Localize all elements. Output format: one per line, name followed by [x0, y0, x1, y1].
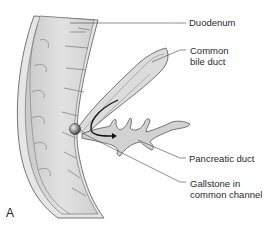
label-gallstone-line2: common channel	[190, 189, 262, 200]
label-common-bile-duct: Common bile duct	[190, 45, 229, 67]
gallstone	[70, 124, 81, 135]
label-pancreatic-duct: Pancreatic duct	[189, 153, 254, 164]
label-common-bile-duct-line1: Common	[190, 45, 229, 56]
panel-letter: A	[6, 206, 14, 220]
label-duodenum: Duodenum	[189, 17, 235, 28]
label-gallstone-line1: Gallstone in	[190, 178, 262, 189]
label-gallstone: Gallstone in common channel	[190, 178, 262, 200]
label-common-bile-duct-line2: bile duct	[190, 56, 229, 67]
